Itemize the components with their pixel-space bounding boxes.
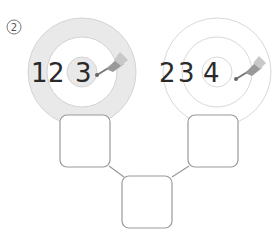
right-answer-box[interactable]	[188, 115, 238, 167]
left-target-number-2: 2	[48, 58, 65, 88]
bottom-answer-box[interactable]	[122, 176, 172, 228]
right-target-number-4: 4	[203, 58, 220, 88]
left-target: 1 2 3	[28, 18, 136, 126]
left-target-number-1: 1	[31, 58, 48, 88]
left-answer-box[interactable]	[60, 115, 110, 167]
diagram-canvas: 2 1 2 3 2 3 4	[0, 0, 272, 233]
left-target-number-3: 3	[75, 58, 92, 88]
right-target-number-2: 2	[159, 58, 176, 88]
connector-lines	[109, 166, 189, 177]
svg-text:2: 2	[11, 22, 17, 33]
right-target-number-3: 3	[178, 58, 195, 88]
problem-number-label: 2	[7, 20, 21, 34]
